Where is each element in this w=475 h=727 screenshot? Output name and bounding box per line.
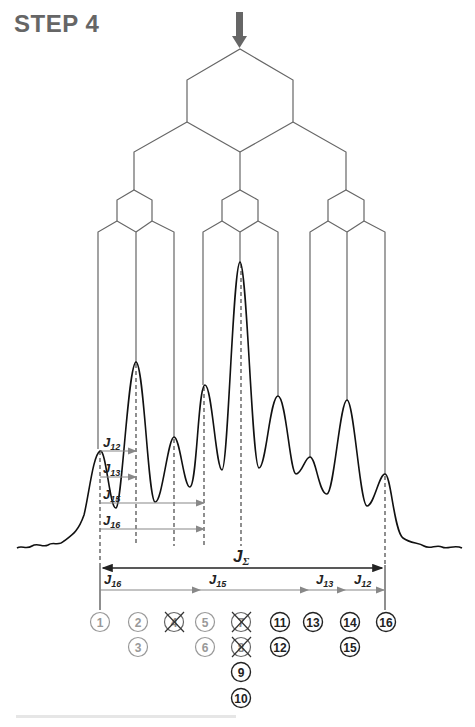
svg-text:16: 16 (379, 616, 393, 630)
svg-text:5: 5 (202, 616, 209, 630)
j16-label-lower: J16 (104, 572, 122, 589)
j13-label-upper: J13 (103, 461, 120, 478)
svg-text:14: 14 (343, 616, 357, 630)
j12-label-lower: J12 (354, 572, 371, 589)
circled-numbers: 1 2 3 4 5 6 7 8 9 10 11 12 13 (91, 612, 396, 708)
input-arrow-icon (232, 12, 247, 48)
j13-label-lower: J13 (316, 572, 333, 589)
svg-text:2: 2 (135, 616, 142, 630)
svg-text:13: 13 (306, 616, 320, 630)
svg-text:12: 12 (273, 641, 287, 655)
j-sum-arrow: JΣ (100, 547, 385, 610)
svg-text:1: 1 (97, 616, 104, 630)
svg-text:9: 9 (238, 666, 245, 680)
j15-label-lower: J15 (209, 572, 227, 589)
svg-text:11: 11 (274, 616, 287, 630)
j16-label-upper: J16 (103, 513, 121, 530)
caption-placeholder (16, 715, 236, 718)
svg-text:15: 15 (343, 641, 357, 655)
j-sum-label: JΣ (233, 547, 249, 567)
j15-label-upper: J15 (103, 487, 121, 504)
j12-label-upper: J12 (103, 435, 120, 452)
svg-text:3: 3 (135, 641, 142, 655)
splitting-tree-diagram: J12 J13 J15 J16 JΣ J16 J15 J13 J12 1 2 3… (0, 0, 475, 727)
svg-text:6: 6 (202, 641, 209, 655)
svg-text:10: 10 (234, 692, 248, 706)
